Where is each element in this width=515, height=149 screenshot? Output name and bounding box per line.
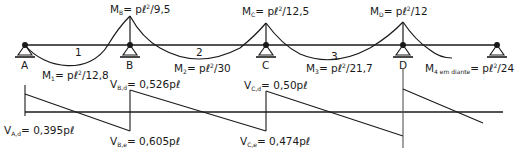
moment-label-md: MD= pℓ2/12 [370, 5, 428, 18]
shear-label-vad: VA,d= 0,395pℓ [4, 124, 74, 137]
moment-label-mb: MB= pℓ2/9,5 [110, 3, 170, 16]
support-label-c: C [262, 59, 269, 71]
span-label-3: 3 [331, 50, 338, 62]
moment-label-mc: MC= pℓ2/12,5 [242, 5, 309, 18]
svg-text:M4 em diante= pℓ2/24: M4 em diante= pℓ2/24 [425, 62, 514, 75]
svg-text:M2= pℓ2/30: M2= pℓ2/30 [174, 62, 231, 75]
svg-text:M3= pℓ2/21,7: M3= pℓ2/21,7 [306, 62, 373, 75]
svg-text:MD= pℓ2/12: MD= pℓ2/12 [370, 5, 428, 18]
shear-line-span-2 [130, 90, 266, 131]
shear-line-span-3 [266, 91, 403, 136]
support-label-b: B [126, 59, 133, 71]
shear-label-vcd: VC,d= 0,50pℓ [244, 79, 308, 92]
svg-text:VA,d= 0,395pℓ: VA,d= 0,395pℓ [4, 124, 74, 137]
span-label-1: 1 [75, 46, 82, 58]
svg-text:M1= pℓ2/12,8: M1= pℓ2/12,8 [42, 69, 109, 82]
span-label-2: 2 [196, 46, 203, 58]
moment-label-m3: M3= pℓ2/21,7 [306, 62, 373, 75]
moment-curve-span-4 [403, 22, 452, 58]
svg-text:VC,d= 0,50pℓ: VC,d= 0,50pℓ [244, 79, 308, 92]
support-label-a: A [21, 59, 29, 71]
shear-label-vce: VC,e= 0,474pℓ [240, 135, 310, 148]
svg-text:VC,e= 0,474pℓ: VC,e= 0,474pℓ [240, 135, 310, 148]
shear-label-vbd: VB,d= 0,526pℓ [110, 78, 180, 91]
svg-text:MC= pℓ2/12,5: MC= pℓ2/12,5 [242, 5, 309, 18]
moment-label-m4: M4 em diante= pℓ2/24 [425, 62, 514, 75]
moment-curve-span-1 [25, 16, 130, 66]
svg-text:VB,e= 0,605pℓ: VB,e= 0,605pℓ [110, 135, 180, 148]
shear-label-vbe: VB,e= 0,605pℓ [110, 135, 180, 148]
shear-line-span-4 [403, 89, 483, 123]
moment-label-m1: M1= pℓ2/12,8 [42, 69, 109, 82]
svg-text:MB= pℓ2/9,5: MB= pℓ2/9,5 [110, 3, 170, 16]
moment-label-m2: M2= pℓ2/30 [174, 62, 231, 75]
svg-text:VB,d= 0,526pℓ: VB,d= 0,526pℓ [110, 78, 180, 91]
beam-diagram: A B C D 1 2 3 MB= pℓ2/9,5 MC= pℓ2/12,5 M… [0, 0, 515, 149]
